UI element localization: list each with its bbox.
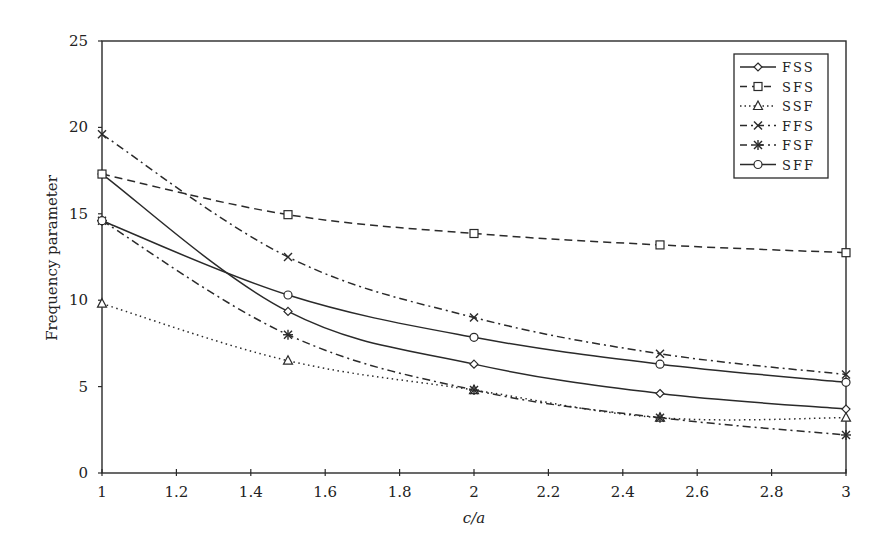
square-marker (656, 241, 664, 249)
x-axis: 11.21.41.61.822.22.42.62.83 (97, 469, 851, 501)
circle-marker (98, 217, 106, 225)
asterisk-marker (753, 140, 763, 150)
diamond-marker (470, 360, 478, 368)
legend: FSSSFSSSFFFSFSFSFF (734, 54, 828, 178)
series-line (102, 221, 846, 435)
square-marker (98, 170, 106, 178)
square-marker (470, 229, 478, 237)
y-axis-title: Frequency parameter (43, 174, 61, 341)
asterisk-marker (655, 413, 665, 423)
x-tick-label: 1.6 (313, 483, 337, 501)
x-tick-label: 1.4 (239, 483, 263, 501)
x-tick-label: 3 (841, 483, 851, 501)
x-tick-label: 2.8 (760, 483, 784, 501)
legend-label: FSS (782, 60, 815, 75)
y-axis: 0510152025 (69, 32, 102, 482)
square-marker (284, 211, 292, 219)
circle-marker (656, 360, 664, 368)
asterisk-marker (469, 385, 479, 395)
x-tick-label: 2.6 (685, 483, 709, 501)
x-marker (284, 253, 292, 261)
diamond-marker (284, 307, 292, 315)
series-line (102, 174, 846, 253)
y-tick-label: 0 (78, 464, 88, 482)
legend-label: SFS (782, 80, 815, 95)
x-marker (656, 350, 664, 358)
y-tick-label: 20 (69, 118, 88, 136)
diamond-marker (656, 390, 664, 398)
x-tick-label: 1.8 (388, 483, 412, 501)
x-axis-title: c/a (463, 509, 485, 527)
legend-label: FSF (782, 138, 815, 153)
legend-label: SFF (782, 158, 815, 173)
x-tick-label: 2.2 (536, 483, 560, 501)
y-tick-label: 10 (69, 291, 88, 309)
y-tick-label: 15 (69, 205, 88, 223)
x-tick-label: 1.2 (164, 483, 188, 501)
series-fsf (97, 216, 851, 440)
series-line (102, 174, 846, 409)
y-tick-label: 5 (78, 378, 88, 396)
square-marker (842, 249, 850, 257)
legend-label: SSF (782, 99, 815, 114)
line-chart: 0510152025 11.21.41.61.822.22.42.62.83 c… (0, 0, 895, 553)
square-marker (754, 83, 762, 91)
asterisk-marker (841, 430, 851, 440)
legend-label: FFS (782, 119, 815, 134)
circle-marker (470, 333, 478, 341)
x-tick-label: 2.4 (611, 483, 635, 501)
circle-marker (284, 291, 292, 299)
circle-marker (842, 378, 850, 386)
series-line (102, 221, 846, 383)
x-tick-label: 2 (469, 483, 479, 501)
circle-marker (754, 161, 762, 169)
x-tick-label: 1 (97, 483, 107, 501)
asterisk-marker (283, 330, 293, 340)
y-tick-label: 25 (69, 32, 88, 50)
triangle-marker (842, 413, 851, 422)
series-sfs (98, 170, 850, 257)
